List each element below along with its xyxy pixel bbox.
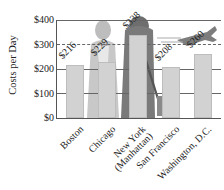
- y-tick-200: $200: [22, 64, 54, 74]
- y-tick-400: $400: [22, 15, 54, 25]
- bar-chicago: [98, 62, 116, 118]
- x-label-boston: Boston: [58, 124, 85, 151]
- bar-chart: Costs per Day $400 $300 $200 $100 $0: [0, 0, 224, 190]
- y-tick-0: $0: [22, 113, 54, 123]
- gridline-400: [57, 20, 221, 21]
- y-axis-label: Costs per Day: [7, 25, 21, 105]
- y-tick-300: $300: [22, 40, 54, 50]
- bar-new-york: [129, 35, 147, 118]
- bar-washington-dc: [194, 54, 212, 118]
- bar-san-francisco: [162, 67, 180, 118]
- y-tick-100: $100: [22, 89, 54, 99]
- bar-boston: [66, 65, 84, 118]
